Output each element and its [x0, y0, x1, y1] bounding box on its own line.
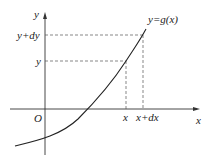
x-tick-x: x — [122, 111, 128, 123]
dashed-guides — [45, 35, 143, 109]
y-tick-y: y — [35, 55, 41, 67]
origin-label: O — [34, 112, 42, 124]
x-tick-x-dx: x+dx — [135, 111, 159, 123]
x-axis-label: x — [195, 114, 201, 126]
curve-label: y=g(x) — [147, 13, 178, 26]
y-axis-label: y — [33, 8, 39, 20]
y-tick-y-dy: y+dy — [16, 29, 40, 41]
diagram-canvas: y x O y=g(x) y+dy y x x+dx — [0, 0, 205, 156]
y-axis-arrow-icon — [43, 12, 47, 19]
x-axis-arrow-icon — [193, 107, 200, 111]
